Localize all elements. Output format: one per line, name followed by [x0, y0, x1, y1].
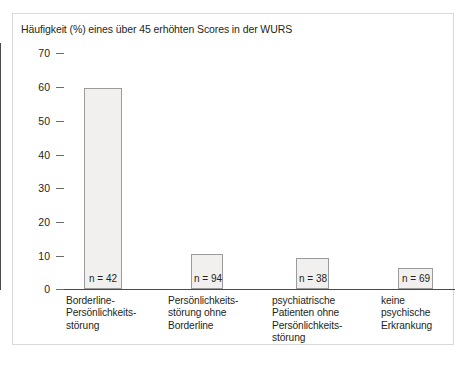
y-tick-label-60: 60	[22, 82, 50, 92]
y-tick-label-20: 20	[22, 217, 50, 227]
category-label-line: störung	[272, 332, 342, 344]
x-axis-line	[63, 289, 455, 290]
category-label-pers-ohne-borderline: Persönlichkeits- störung ohne Borderline	[168, 295, 238, 332]
y-tick-label-10: 10	[22, 251, 50, 261]
bar-borderline	[84, 88, 122, 289]
y-tick-label-0: 0	[22, 284, 50, 294]
category-label-line: störung	[66, 320, 136, 332]
y-tick-label-50: 50	[22, 116, 50, 126]
category-label-borderline: Borderline- Persönlichkeits- störung	[66, 295, 136, 332]
y-tick-40	[56, 155, 64, 156]
y-tick-60	[56, 87, 64, 88]
category-label-line: störung ohne	[168, 307, 238, 319]
y-tick-10	[56, 256, 64, 257]
y-axis-line	[0, 43, 1, 290]
y-tick-30	[56, 188, 64, 189]
category-label-line: Borderline-	[66, 295, 136, 307]
category-label-line: psychiatrische	[272, 295, 342, 307]
category-label-line: Persönlichkeits-	[66, 307, 136, 319]
y-tick-label-30: 30	[22, 183, 50, 193]
category-label-keine-erkrankung: keine psychische Erkrankung	[381, 295, 432, 332]
y-tick-20	[56, 222, 64, 223]
category-label-line: keine	[381, 295, 432, 307]
category-label-psychiatrische-patienten: psychiatrische Patienten ohne Persönlich…	[272, 295, 342, 345]
y-tick-label-40: 40	[22, 150, 50, 160]
y-tick-0	[56, 289, 64, 290]
chart-title: Häufigkeit (%) eines über 45 erhöhten Sc…	[21, 23, 292, 36]
figure: Häufigkeit (%) eines über 45 erhöhten Sc…	[0, 0, 470, 369]
category-label-line: Persönlichkeits-	[272, 320, 342, 332]
bar-n-label-borderline: n = 42	[89, 274, 117, 284]
y-tick-50	[56, 121, 64, 122]
y-tick-label-70: 70	[22, 48, 50, 58]
category-label-line: psychische	[381, 307, 432, 319]
bar-n-label-pers-ohne-borderline: n = 94	[194, 274, 222, 284]
category-label-line: Persönlichkeits-	[168, 295, 238, 307]
category-label-line: Borderline	[168, 320, 238, 332]
bar-n-label-keine-erkrankung: n = 69	[402, 274, 430, 284]
y-tick-70	[56, 53, 64, 54]
category-label-line: Patienten ohne	[272, 307, 342, 319]
category-label-line: Erkrankung	[381, 320, 432, 332]
bar-n-label-psychiatrische-patienten: n = 38	[299, 274, 327, 284]
